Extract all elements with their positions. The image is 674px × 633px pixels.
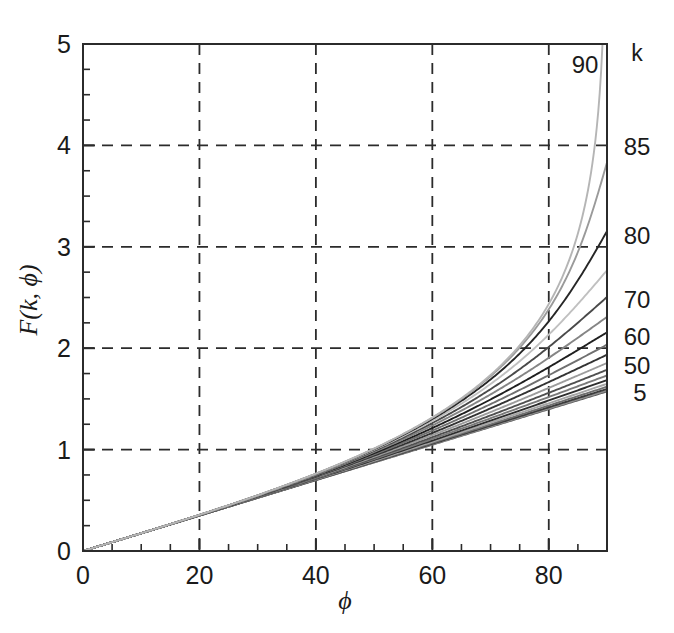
elliptic-integral-chart: 012345020406080 k9085807060505 ϕ F(k, ϕ) (0, 0, 674, 633)
y-axis-title: F(k, ϕ) (14, 264, 43, 336)
x-tick-label: 60 (418, 561, 446, 589)
y-tick-label: 1 (57, 436, 71, 464)
y-tick-label: 4 (57, 131, 71, 159)
curve-label-80: 80 (624, 222, 651, 249)
x-tick-label: 80 (535, 561, 563, 589)
x-axis-title: ϕ (338, 586, 351, 615)
y-tick-label: 0 (57, 537, 71, 565)
y-tick-label: 3 (57, 233, 71, 261)
curve-label-50: 50 (624, 352, 651, 379)
x-tick-label: 0 (76, 561, 90, 589)
x-tick-label: 20 (186, 561, 214, 589)
curve-label-5: 5 (633, 379, 646, 406)
y-tick-label: 5 (57, 30, 71, 58)
legend-title-k: k (631, 40, 643, 66)
chart-page: 012345020406080 k9085807060505 ϕ F(k, ϕ) (0, 0, 674, 633)
curve-label-70: 70 (624, 286, 651, 313)
curve-label-85: 85 (624, 133, 651, 160)
curve-label-90: 90 (572, 51, 599, 78)
curve-label-60: 60 (624, 323, 651, 350)
x-tick-label: 40 (302, 561, 330, 589)
chart-background (0, 0, 674, 633)
y-tick-label: 2 (57, 334, 71, 362)
